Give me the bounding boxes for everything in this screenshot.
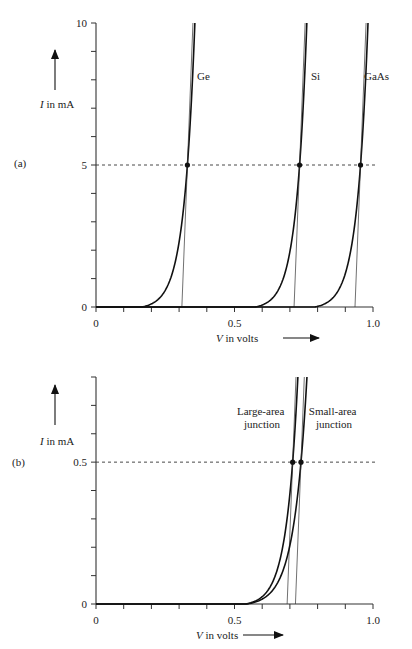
series-label-ge: Ge <box>197 70 210 82</box>
y-tick-label: 5 <box>82 159 88 171</box>
panel-b-x-axis-label: V in volts <box>196 629 283 641</box>
svg-text:V in volts: V in volts <box>196 629 238 641</box>
tangent-large-area-junction <box>287 377 296 604</box>
panel-b-y-axis-label: I in mA <box>39 385 74 447</box>
x-tick-label: 0.5 <box>228 614 242 626</box>
panel-b-chart: (b) I in mA 00.500.51.0 V in volts Large… <box>12 377 380 641</box>
x-tick-label: 0 <box>93 614 99 626</box>
panel-a-y-axis-label: I in mA <box>39 50 74 110</box>
panel-a-label: (a) <box>14 157 27 170</box>
point-large-area-junction <box>290 460 295 465</box>
series-label-gaas: GaAs <box>364 70 389 82</box>
series-label-si: Si <box>311 70 320 82</box>
x-axis-unit: in volts <box>203 629 238 641</box>
y-tick-label: 0.5 <box>73 456 87 468</box>
panel-b-label: (b) <box>12 456 25 469</box>
y-axis-unit: in mA <box>44 435 75 447</box>
y-axis-unit: in mA <box>44 98 75 110</box>
panel-a-chart: (a) I in mA 051000.51.0 V in volts Ge Si… <box>14 17 389 344</box>
svg-text:I in mA: I in mA <box>39 98 74 110</box>
y-tick-label: 0 <box>82 301 88 313</box>
point-ge <box>185 162 190 167</box>
series-label-small-area: Small-area junction <box>309 405 359 430</box>
point-gaas <box>358 162 363 167</box>
x-tick-label: 1.0 <box>366 614 380 626</box>
point-si <box>297 162 302 167</box>
diode-iv-figure: (a) I in mA 051000.51.0 V in volts Ge Si… <box>0 0 412 649</box>
x-axis-unit: in volts <box>223 332 258 344</box>
panel-a-x-axis-label: V in volts <box>216 332 319 344</box>
svg-text:I in mA: I in mA <box>39 435 74 447</box>
x-tick-label: 1.0 <box>366 317 380 329</box>
x-tick-label: 0 <box>93 317 99 329</box>
curve-gaas <box>96 23 368 307</box>
x-tick-label: 0.5 <box>228 317 242 329</box>
svg-text:V in volts: V in volts <box>216 332 258 344</box>
y-tick-label: 0 <box>82 598 88 610</box>
y-tick-label: 10 <box>76 17 88 29</box>
point-small-area-junction <box>298 460 303 465</box>
series-label-large-area: Large-area junction <box>237 405 287 430</box>
